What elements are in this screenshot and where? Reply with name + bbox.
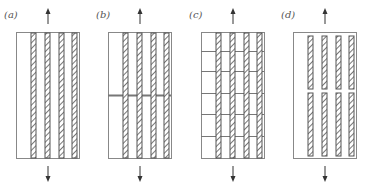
tension-arrow-down-icon — [231, 176, 236, 182]
panel-label: (b) — [96, 9, 110, 20]
fibre-segment — [308, 93, 313, 156]
tension-arrow-up-icon — [46, 8, 51, 14]
tension-arrow-up-icon — [231, 8, 236, 14]
panel-label: (d) — [281, 9, 295, 20]
fibre-segment — [322, 93, 327, 156]
fibre — [137, 33, 142, 158]
fibre-segment — [308, 36, 313, 89]
fibre — [216, 33, 221, 158]
tension-arrow-down-icon — [138, 176, 143, 182]
fibre-segment — [336, 93, 341, 156]
fibre — [72, 33, 77, 158]
tension-arrow-down-icon — [323, 176, 328, 182]
tension-arrow-up-icon — [323, 8, 328, 14]
fibre — [164, 33, 169, 158]
fibre — [257, 33, 262, 158]
fibre-segment — [349, 93, 354, 156]
panel-label: (a) — [4, 9, 18, 20]
fibre — [45, 33, 50, 158]
fibre — [31, 33, 36, 158]
fibre-segment — [349, 36, 354, 89]
fibre-segment — [336, 36, 341, 89]
fibre — [244, 33, 249, 158]
fibre — [59, 33, 64, 158]
fibre — [123, 33, 128, 158]
fibre — [230, 33, 235, 158]
panel-label: (c) — [189, 9, 202, 20]
tension-arrow-up-icon — [138, 8, 143, 14]
tension-arrow-down-icon — [46, 176, 51, 182]
fibre — [151, 33, 156, 158]
fibre-segment — [322, 36, 327, 89]
composite-diagram — [0, 0, 365, 190]
